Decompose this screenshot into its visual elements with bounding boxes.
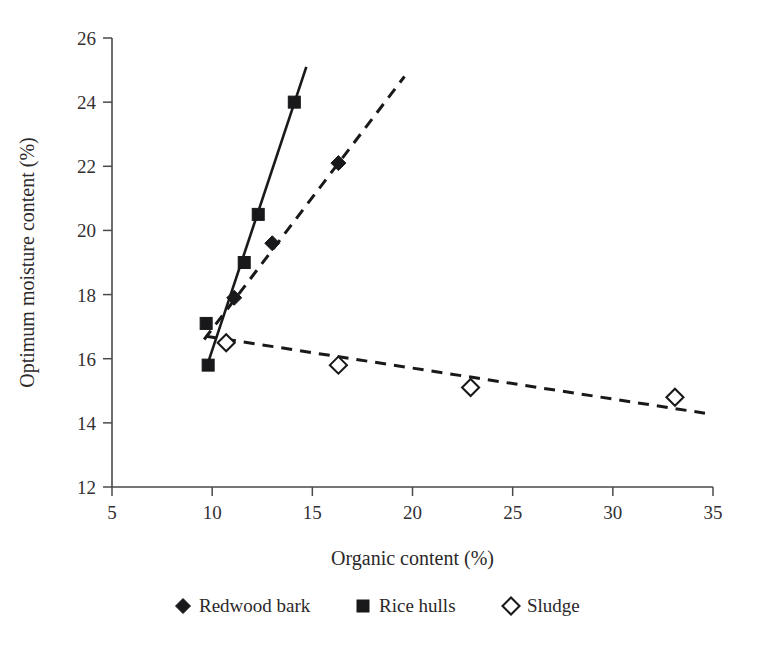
x-tick-label: 5 — [107, 502, 117, 523]
x-axis-title: Organic content (%) — [331, 547, 494, 570]
legend-label: Sludge — [527, 595, 580, 616]
data-point-open-diamond — [666, 389, 683, 406]
y-tick-label: 18 — [77, 285, 96, 306]
chart-figure: 12141618202224265101520253035Organic con… — [0, 0, 768, 659]
y-axis-title: Optimum moisture content (%) — [16, 137, 39, 388]
legend-label: Redwood bark — [199, 595, 311, 616]
data-point-open-diamond — [330, 357, 347, 374]
legend-label: Rice hulls — [379, 595, 456, 616]
x-tick-label: 30 — [603, 502, 622, 523]
data-point-open-diamond — [462, 379, 479, 396]
x-tick-label: 35 — [704, 502, 723, 523]
y-tick-label: 14 — [77, 413, 97, 434]
data-point-open-diamond — [503, 598, 520, 615]
data-point-square — [238, 257, 250, 269]
data-point-square — [288, 96, 300, 108]
y-tick-label: 22 — [77, 156, 96, 177]
data-point-square — [357, 600, 369, 612]
data-point-square — [252, 208, 264, 220]
axis-lines — [112, 38, 713, 487]
data-point-square — [202, 359, 214, 371]
x-tick-label: 25 — [503, 502, 522, 523]
scatter-plot: 12141618202224265101520253035Organic con… — [0, 0, 768, 659]
trend-line-sludge — [206, 336, 705, 413]
x-tick-label: 20 — [403, 502, 422, 523]
data-point-diamond — [265, 236, 280, 251]
y-tick-label: 24 — [77, 92, 97, 113]
y-tick-label: 12 — [77, 477, 96, 498]
data-point-square — [200, 317, 212, 329]
y-tick-label: 16 — [77, 349, 96, 370]
y-tick-label: 26 — [77, 28, 96, 49]
data-point-open-diamond — [218, 334, 235, 351]
data-point-diamond — [176, 599, 191, 614]
y-tick-label: 20 — [77, 220, 96, 241]
x-tick-label: 10 — [203, 502, 222, 523]
x-tick-label: 15 — [303, 502, 322, 523]
